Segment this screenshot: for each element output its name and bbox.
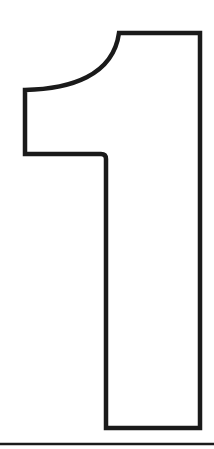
numeral-one-figure: 1: [0, 0, 214, 449]
numeral-one-outline: [25, 33, 200, 428]
